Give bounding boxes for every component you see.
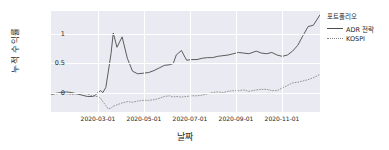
legend: 포트폴리오 ADR 전략 KOSPI: [327, 11, 387, 44]
legend-title: 포트폴리오: [327, 11, 387, 21]
xtick-label-2: 2020-07-01: [173, 116, 208, 122]
ytick-label-0: 0: [47, 90, 65, 97]
legend-swatch-solid-line-icon: [327, 24, 343, 33]
gridline-vertical-3: [236, 11, 237, 112]
legend-item-adr[interactable]: ADR 전략: [327, 24, 387, 33]
legend-label-kospi: KOSPI: [346, 35, 365, 43]
legend-label-adr: ADR 전략: [346, 24, 374, 34]
gridline-horizontal-1: [51, 34, 320, 35]
gridline-horizontal-05: [51, 63, 320, 64]
gridline-vertical-4: [282, 11, 283, 112]
ytick-label-05: 0.5: [47, 60, 65, 67]
series-line-adr: [51, 15, 320, 97]
gridline-vertical-0: [98, 11, 99, 112]
x-axis-title: 날짜: [51, 130, 320, 143]
xtick-label-3: 2020-09-01: [219, 116, 254, 122]
legend-swatch-dotted-line-icon: [327, 34, 343, 43]
series-line-kospi: [51, 74, 320, 108]
xtick-label-4: 2020-11-01: [265, 116, 300, 122]
gridline-vertical-1: [144, 11, 145, 112]
plot-area: [51, 11, 320, 112]
gridline-vertical-2: [190, 11, 191, 112]
xtick-label-0: 2020-03-01: [81, 116, 116, 122]
series-canvas: [51, 11, 320, 112]
ytick-label-1: 1: [47, 31, 65, 38]
gridline-horizontal-0: [51, 93, 320, 94]
chart-figure: 1 0.5 0 2020-03-01 2020-05-01 2020-07-01…: [0, 0, 389, 150]
legend-item-kospi[interactable]: KOSPI: [327, 34, 387, 43]
y-axis-title: 누적 수익률: [8, 14, 20, 86]
xtick-label-1: 2020-05-01: [127, 116, 162, 122]
